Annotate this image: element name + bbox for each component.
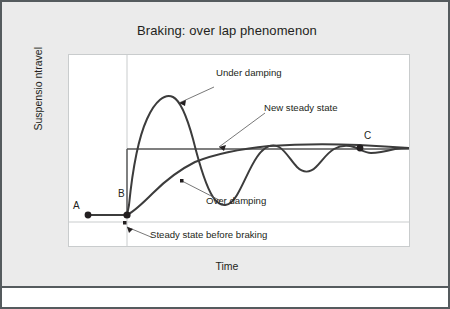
over-damping-curve: [127, 144, 409, 215]
marker-point-c: [357, 145, 364, 152]
leader-line-new-steady-state: [219, 113, 265, 147]
chart-title: Braking: over lap phenomenon: [2, 23, 450, 38]
plot-area: [68, 54, 410, 247]
annotation-under-damping: Under damping: [216, 67, 282, 78]
point-label-a: A: [73, 200, 80, 211]
under-damping-curve: [127, 96, 409, 215]
slide-canvas: Braking: over lap phenomenon Suspensio n…: [0, 0, 450, 288]
annotation-new-steady-state: New steady state: [264, 102, 338, 113]
marker-point-a: [85, 212, 92, 219]
point-label-c: C: [364, 130, 371, 141]
annotation-over-damping: Over damping: [206, 195, 266, 206]
arrowhead-over-damping: [180, 179, 184, 183]
chart-svg: [69, 55, 409, 246]
y-axis-label-text: Suspensio ntravel: [32, 47, 44, 130]
point-label-b: B: [118, 188, 125, 199]
slide-footer-area: [0, 288, 450, 309]
marker-dot-baseline-tick: [123, 221, 127, 225]
leader-line-under-damping: [179, 87, 214, 103]
x-axis-label: Time: [2, 260, 450, 272]
y-axis-label: Suspensio ntravel: [32, 0, 44, 107]
annotation-steady-state-before-braking: Steady state before braking: [150, 229, 267, 240]
marker-point-b: [123, 211, 130, 218]
